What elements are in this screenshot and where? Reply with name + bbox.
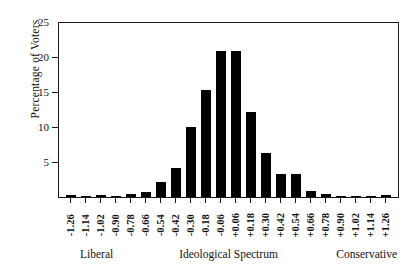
caption-conservative: Conservative [336, 247, 397, 261]
y-axis-label: 20 [19, 52, 49, 63]
x-label-slot: -0.66 [138, 204, 153, 242]
x-label-slot: -0.18 [198, 204, 213, 242]
y-axis-label: 5 [19, 157, 49, 168]
x-axis-label: -1.02 [96, 205, 107, 245]
x-tick-slot [258, 197, 273, 204]
bar-slot [213, 22, 228, 197]
x-tick-slot [243, 197, 258, 204]
bar [156, 182, 167, 197]
x-axis-label: +0.18 [246, 205, 257, 245]
bar-slot [378, 22, 393, 197]
x-label-slot: -0.06 [213, 204, 228, 242]
caption-ideological-spectrum: Ideological Spectrum [179, 247, 278, 261]
x-axis-tick [340, 197, 341, 203]
x-axis-tick [235, 197, 236, 203]
x-axis-label: +0.42 [276, 205, 287, 245]
x-axis-tick [355, 197, 356, 203]
bar [171, 168, 182, 197]
y-axis-label: 10 [19, 122, 49, 133]
x-tick-slot [198, 197, 213, 204]
x-label-slot: +0.18 [243, 204, 258, 242]
x-tick-slot [63, 197, 78, 204]
x-label-slot: +0.06 [228, 204, 243, 242]
x-axis-label: +1.26 [381, 205, 392, 245]
x-tick-slot [228, 197, 243, 204]
caption-liberal: Liberal [80, 247, 113, 261]
x-axis-tick [85, 197, 86, 203]
x-axis-label: +0.90 [336, 205, 347, 245]
bar-slot [228, 22, 243, 197]
x-label-slot: -0.54 [153, 204, 168, 242]
bar-slot [243, 22, 258, 197]
x-axis-tick [70, 197, 71, 203]
x-axis-tick [280, 197, 281, 203]
x-tick-slot [363, 197, 378, 204]
x-axis-label: +1.14 [366, 205, 377, 245]
bar [246, 112, 257, 197]
bar-slot [333, 22, 348, 197]
x-axis-label: -0.78 [126, 205, 137, 245]
x-tick-slot [78, 197, 93, 204]
x-label-slot: -1.14 [78, 204, 93, 242]
bar-slot [138, 22, 153, 197]
x-axis-tick [205, 197, 206, 203]
x-label-slot: +0.78 [318, 204, 333, 242]
x-axis-label: -0.66 [141, 205, 152, 245]
x-axis-label: +1.02 [351, 205, 362, 245]
x-tick-slot [318, 197, 333, 204]
bar-slot [258, 22, 273, 197]
bar-slot [93, 22, 108, 197]
x-axis-tick [100, 197, 101, 203]
x-label-slot: -1.02 [93, 204, 108, 242]
bar-slot [348, 22, 363, 197]
x-axis-label: +0.06 [231, 205, 242, 245]
x-tick-slot [213, 197, 228, 204]
x-axis-label: +0.54 [291, 205, 302, 245]
x-axis-label: -0.54 [156, 205, 167, 245]
x-label-slot: +0.42 [273, 204, 288, 242]
bar [276, 174, 287, 197]
x-axis-tick [145, 197, 146, 203]
x-axis-tick [370, 197, 371, 203]
x-axis-tick [115, 197, 116, 203]
x-axis-tick [295, 197, 296, 203]
x-axis-tick [160, 197, 161, 203]
x-axis-tick [310, 197, 311, 203]
x-axis-tick [385, 197, 386, 203]
x-tick-slot [183, 197, 198, 204]
x-tick-slot [303, 197, 318, 204]
x-axis-label: -0.42 [171, 205, 182, 245]
bar-series [59, 22, 397, 197]
x-label-slot: +0.66 [303, 204, 318, 242]
x-label-slot: +0.90 [333, 204, 348, 242]
x-axis-labels: -1.26-1.14-1.02-0.90-0.78-0.66-0.54-0.42… [59, 204, 397, 242]
x-axis-tick [325, 197, 326, 203]
x-label-slot: -0.78 [123, 204, 138, 242]
x-label-slot: -0.42 [168, 204, 183, 242]
x-label-slot: +0.54 [288, 204, 303, 242]
x-tick-slot [123, 197, 138, 204]
bar-slot [108, 22, 123, 197]
x-axis-tick [220, 197, 221, 203]
x-axis-label: +0.66 [306, 205, 317, 245]
x-tick-slot [108, 197, 123, 204]
x-axis-label: +0.30 [261, 205, 272, 245]
y-axis-label: 15 [19, 87, 49, 98]
x-tick-slot [153, 197, 168, 204]
bar-slot [168, 22, 183, 197]
x-label-slot: +1.14 [363, 204, 378, 242]
x-axis-captions: Liberal Ideological Spectrum Conservativ… [58, 247, 399, 265]
x-label-slot: -1.26 [63, 204, 78, 242]
bar [231, 51, 242, 197]
bar [261, 153, 272, 197]
bar [216, 51, 227, 197]
bar [201, 90, 212, 197]
bar [291, 174, 302, 197]
x-label-slot: -0.90 [108, 204, 123, 242]
x-axis-tick [250, 197, 251, 203]
x-axis-label: -1.26 [66, 205, 77, 245]
x-tick-slot [168, 197, 183, 204]
histogram-figure: Percentage of Voters 252015105 -1.26-1.1… [0, 0, 419, 271]
bar-slot [318, 22, 333, 197]
x-axis-tick [130, 197, 131, 203]
